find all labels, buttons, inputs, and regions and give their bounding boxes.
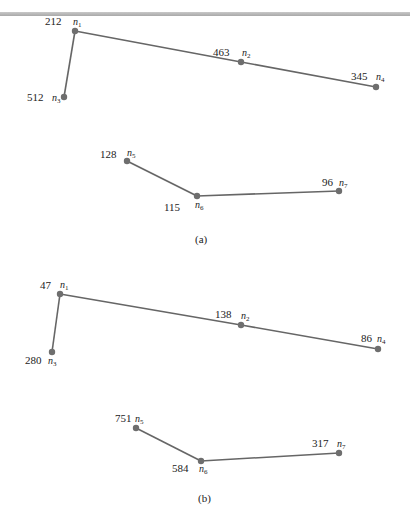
label-n2: n2 bbox=[241, 310, 250, 323]
node-n7 bbox=[336, 188, 342, 194]
caption-b: (b) bbox=[198, 492, 211, 505]
node-n5 bbox=[124, 158, 130, 164]
value-n4: 345 bbox=[351, 70, 368, 82]
label-n4: n4 bbox=[377, 333, 386, 346]
label-n6: n6 bbox=[195, 199, 204, 212]
edge-n3-n1 bbox=[52, 294, 60, 352]
label-n5: n5 bbox=[127, 147, 136, 160]
label-n6: n6 bbox=[199, 463, 208, 476]
label-n1: n1 bbox=[60, 279, 69, 292]
label-n3: n3 bbox=[52, 92, 61, 105]
value-n6: 115 bbox=[164, 201, 181, 213]
label-n3: n3 bbox=[48, 355, 57, 368]
node-n2 bbox=[238, 59, 244, 65]
label-n5: n5 bbox=[135, 413, 144, 426]
node-n2 bbox=[238, 322, 244, 328]
node-n5 bbox=[133, 425, 139, 431]
node-n4 bbox=[375, 346, 381, 352]
label-n7: n7 bbox=[337, 438, 346, 451]
value-n5: 128 bbox=[100, 148, 117, 160]
edge-n6-n7 bbox=[197, 191, 339, 196]
label-n4: n4 bbox=[376, 71, 385, 84]
value-n3: 280 bbox=[25, 354, 42, 366]
node-n3 bbox=[61, 94, 67, 100]
edge-n2-n4 bbox=[241, 325, 378, 349]
value-n6: 584 bbox=[172, 462, 189, 474]
panel-a: 212 463 512 345 128 115 96 n1 n2 n3 n4 n… bbox=[27, 15, 385, 246]
label-n7: n7 bbox=[339, 177, 348, 190]
node-n4 bbox=[373, 84, 379, 90]
edge-n6-n7 bbox=[201, 453, 339, 461]
value-n1: 212 bbox=[45, 15, 62, 27]
value-n7: 96 bbox=[322, 176, 334, 188]
value-n4: 86 bbox=[361, 332, 373, 344]
edge-n5-n6 bbox=[136, 428, 201, 461]
label-n2: n2 bbox=[242, 47, 251, 60]
value-n3: 512 bbox=[27, 91, 44, 103]
value-n7: 317 bbox=[312, 437, 329, 449]
edge-n1-n2 bbox=[60, 294, 241, 325]
edge-n3-n1 bbox=[64, 31, 75, 97]
value-n2: 463 bbox=[213, 46, 230, 58]
value-n2: 138 bbox=[215, 308, 232, 320]
value-n5: 751 bbox=[115, 412, 132, 424]
value-n1: 47 bbox=[40, 279, 52, 291]
panel-b: 47 138 280 86 751 584 317 n1 n2 n3 n4 n5… bbox=[25, 279, 386, 505]
edge-n5-n6 bbox=[127, 161, 197, 196]
label-n1: n1 bbox=[73, 16, 82, 29]
graph-diagram: 212 463 512 345 128 115 96 n1 n2 n3 n4 n… bbox=[0, 0, 410, 517]
node-n1 bbox=[57, 291, 63, 297]
caption-a: (a) bbox=[195, 233, 208, 246]
